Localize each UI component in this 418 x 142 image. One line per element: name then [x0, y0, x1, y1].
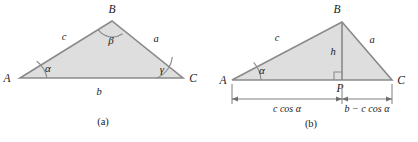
figure-root: A B C c a b α β γ (a) A B: [0, 0, 418, 142]
dim-arrow-left-a: [232, 97, 238, 102]
dim-arrow-right-a: [342, 97, 348, 102]
panel-a: A B C c a b α β γ (a): [2, 3, 197, 128]
side-label-b-a: a: [369, 34, 374, 45]
dim-label-left: c cos α: [273, 103, 302, 114]
angle-label-a-beta: β: [107, 34, 114, 46]
dim-arrow-left-b: [336, 97, 342, 102]
side-label-b-c: c: [275, 32, 280, 43]
side-label-a-a: a: [153, 33, 158, 44]
side-label-a-b: b: [96, 86, 101, 97]
dim-arrow-right-b: [386, 97, 392, 102]
angle-label-a-alpha: α: [45, 62, 51, 74]
vertex-label-a-A: A: [2, 72, 11, 84]
vertex-label-b-B: B: [333, 3, 340, 15]
angle-label-a-gamma: γ: [160, 63, 165, 75]
side-label-b-h: h: [330, 46, 335, 57]
vertex-label-a-B: B: [108, 3, 115, 15]
caption-panel-a: (a): [97, 116, 109, 128]
vertex-label-b-C: C: [397, 74, 405, 86]
side-label-a-c: c: [62, 31, 67, 42]
dim-label-right: b − c cos α: [345, 103, 391, 114]
angle-label-b-alpha: α: [259, 64, 265, 76]
panel-b: A B C P c a h α c cos α b − c cos α: [218, 3, 405, 130]
caption-panel-b: (b): [305, 118, 318, 130]
vertex-label-b-A: A: [218, 74, 227, 86]
vertex-label-a-C: C: [189, 72, 197, 84]
figure-svg: A B C c a b α β γ (a) A B: [0, 0, 418, 142]
